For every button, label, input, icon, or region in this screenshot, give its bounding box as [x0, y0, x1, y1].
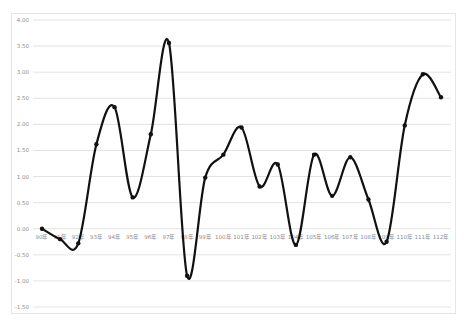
data-point-marker [403, 123, 407, 127]
y-axis-ticks: 4.003.503.002.502.001.501.000.500.00-0.5… [15, 17, 30, 310]
data-point-marker [421, 72, 425, 76]
x-tick-label: 111年 [415, 233, 432, 241]
gridlines [33, 20, 451, 307]
x-tick-label: 104年 [288, 233, 305, 241]
data-point-marker [167, 41, 171, 45]
x-tick-label: 95年 [126, 233, 139, 241]
x-tick-label: 90年 [36, 233, 49, 241]
data-point-marker [112, 105, 116, 109]
x-tick-label: 96年 [144, 233, 157, 241]
data-point-marker [221, 152, 225, 156]
data-point-marker [312, 152, 316, 156]
x-tick-label: 106年 [324, 233, 341, 241]
data-point-marker [203, 175, 207, 179]
data-point-marker [149, 132, 153, 136]
x-tick-label: 97年 [162, 233, 175, 241]
x-tick-label: 102年 [251, 233, 268, 241]
x-tick-label: 105年 [306, 233, 323, 241]
y-tick-label: 4.00 [17, 17, 30, 23]
x-tick-label: 93年 [90, 233, 103, 241]
data-point-marker [276, 162, 280, 166]
y-tick-label: 1.00 [17, 174, 30, 180]
y-tick-label: -1.00 [15, 278, 30, 284]
y-tick-label: 0.50 [17, 200, 30, 206]
x-tick-label: 92年 [72, 233, 85, 241]
series-line [42, 39, 441, 279]
data-point-marker [384, 240, 388, 244]
y-tick-label: 2.00 [17, 121, 30, 127]
data-point-marker [257, 184, 261, 188]
data-point-marker [58, 237, 62, 241]
x-tick-label: 94年 [108, 233, 121, 241]
data-point-marker [40, 227, 44, 231]
data-point-marker [330, 194, 334, 198]
x-tick-label: 107年 [342, 233, 359, 241]
x-tick-label: 99年 [199, 233, 212, 241]
x-tick-label: 101年 [233, 233, 250, 241]
y-tick-label: 3.00 [17, 69, 30, 75]
data-point-marker [94, 142, 98, 146]
y-tick-label: 1.50 [17, 147, 30, 153]
data-point-marker [130, 195, 134, 199]
y-tick-label: 2.50 [17, 95, 30, 101]
data-point-marker [366, 197, 370, 201]
y-tick-label: 0.00 [17, 226, 30, 232]
y-tick-label: -0.50 [15, 252, 30, 258]
data-point-marker [185, 273, 189, 277]
x-tick-label: 108年 [360, 233, 377, 241]
data-point-marker [76, 241, 80, 245]
x-tick-label: 112年 [433, 233, 450, 241]
x-tick-label: 103年 [270, 233, 287, 241]
x-tick-label: 100年 [215, 233, 232, 241]
y-tick-label: -1.50 [15, 304, 30, 310]
data-point-marker [348, 155, 352, 159]
data-point-marker [439, 95, 443, 99]
line-chart: 4.003.503.002.502.001.501.000.500.00-0.5… [0, 0, 467, 328]
x-tick-label: 110年 [396, 233, 413, 241]
data-point-marker [294, 243, 298, 247]
data-point-marker [239, 125, 243, 129]
y-tick-label: 3.50 [17, 43, 30, 49]
